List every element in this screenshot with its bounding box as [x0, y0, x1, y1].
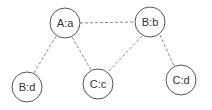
node-label: B:b	[142, 16, 159, 28]
edge-Bb-Cd	[160, 35, 174, 66]
node-label: C:d	[172, 74, 189, 86]
node-Aa[interactable]: A:a	[50, 8, 80, 38]
edge-Aa-Cc	[72, 37, 91, 70]
node-Cd[interactable]: C:d	[166, 65, 196, 95]
node-Bd[interactable]: B:d	[12, 72, 42, 102]
node-label: A:a	[57, 17, 74, 29]
graph-diagram: A:a B:b B:d C:c C:d	[0, 0, 212, 110]
node-Cc[interactable]: C:c	[83, 69, 113, 99]
edge-Bb-Cc	[108, 36, 142, 72]
node-Bb[interactable]: B:b	[135, 7, 165, 37]
node-label: B:d	[19, 81, 36, 93]
edge-Aa-Bb	[80, 22, 135, 23]
edge-Aa-Bd	[34, 36, 56, 73]
node-label: C:c	[90, 78, 107, 90]
